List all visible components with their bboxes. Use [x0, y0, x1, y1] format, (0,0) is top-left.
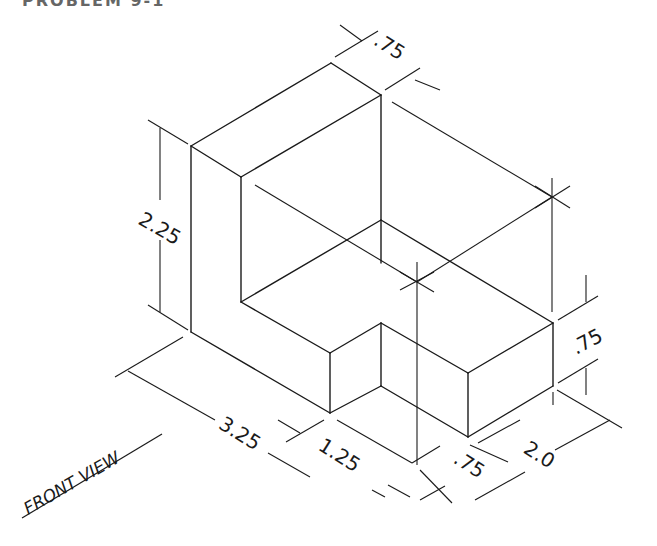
- isometric-drawing: .75 2.25 .75 3.25 1.25 .75 2.0 FRONT VIE…: [0, 0, 657, 546]
- object-outline: [191, 63, 553, 437]
- dim-notch-length: 1.25: [314, 433, 364, 477]
- dim-top-depth: .75: [370, 28, 410, 65]
- dim-width: 2.0: [520, 436, 560, 473]
- svg-text:FRONT VIEW: FRONT VIEW: [20, 447, 124, 519]
- front-view-label: FRONT VIEW: [20, 434, 162, 518]
- construction-lines: [255, 102, 570, 465]
- dim-step-height: .75: [567, 323, 606, 359]
- dim-length: 3.25: [215, 411, 265, 455]
